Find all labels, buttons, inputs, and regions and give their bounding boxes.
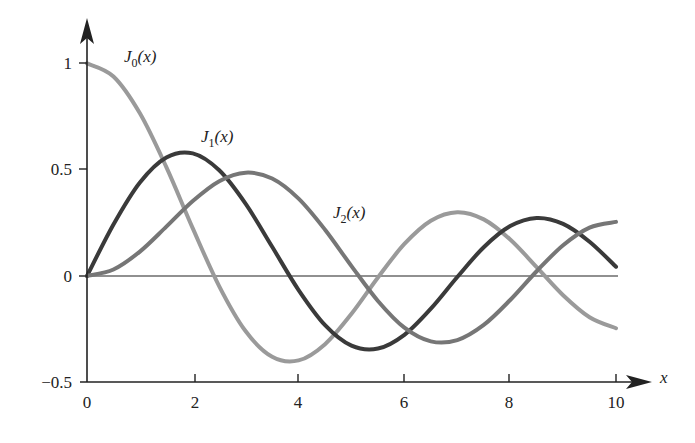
y-tick-1: 1 [64,54,73,73]
curve-j2x [87,173,616,343]
curve-j1x [87,152,616,349]
svg-text:J2(x): J2(x) [333,203,366,226]
svg-text:J1(x): J1(x) [201,127,234,150]
x-tick-10: 10 [608,393,625,412]
bessel-chart: 1 0.5 0 −0.5 0 2 4 6 8 10 x J0(x) J1(x) … [0,0,695,443]
x-tick-6: 6 [400,393,409,412]
x-tick-2: 2 [191,393,200,412]
label-j1: J1(x) [201,127,234,150]
label-j2: J2(x) [333,203,366,226]
label-j0: J0(x) [124,47,157,70]
svg-text:J0(x): J0(x) [124,47,157,70]
x-tick-8: 8 [505,393,514,412]
x-tick-4: 4 [294,393,303,412]
y-tick-0.5: 0.5 [51,160,72,179]
y-tick-neg0.5: −0.5 [41,373,72,392]
x-tick-0: 0 [83,393,92,412]
x-axis-label: x [659,368,668,387]
y-tick-0: 0 [64,267,73,286]
